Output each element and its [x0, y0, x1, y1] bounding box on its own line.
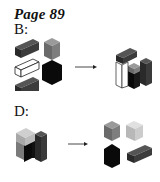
puzzle-d-before — [16, 128, 47, 162]
dark-bar-block — [127, 145, 152, 163]
light-gray-cube-block — [126, 121, 143, 141]
gray-cube-block — [104, 121, 120, 141]
puzzle-b-before — [15, 38, 62, 91]
black-block — [104, 144, 120, 168]
white-bar-block — [15, 59, 39, 77]
puzzle-b-after — [116, 48, 152, 89]
puzzle-diagrams — [0, 0, 160, 182]
right-arrow-icon — [75, 65, 97, 69]
right-arrow-icon-2 — [68, 142, 88, 146]
dark-bar-block — [15, 39, 39, 58]
black-hex-block — [42, 60, 62, 85]
gray-cube-block — [44, 38, 60, 60]
dark-bar-block-2 — [15, 77, 39, 91]
puzzle-d-after — [104, 121, 152, 168]
